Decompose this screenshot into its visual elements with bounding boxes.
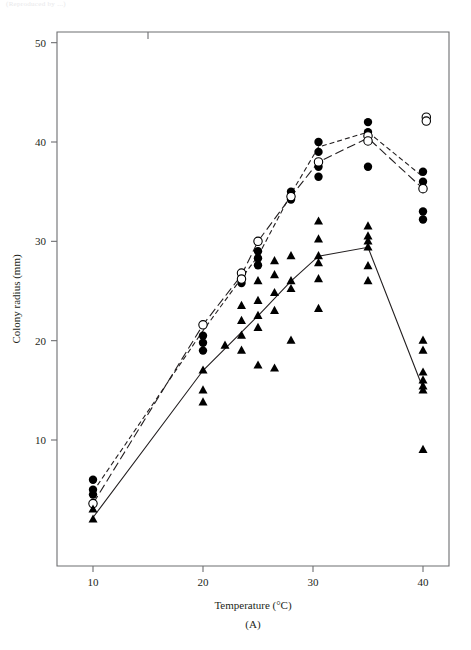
figure-panel-a: (Reproduced by ...) 102030405010203040Te… [0,0,471,650]
data-point-open-circle [314,158,322,166]
data-point-filled-triangle [314,304,323,312]
x-axis-tick-label: 20 [198,576,210,588]
data-point-filled-triangle [237,301,246,309]
cut-caption-text: (Reproduced by ...) [6,0,66,8]
data-point-filled-circle [364,118,372,126]
data-point-open-circle [364,137,372,145]
series-line-open-circle [93,138,423,504]
y-axis-tick-label: 40 [35,136,47,148]
data-point-filled-circle [199,346,207,354]
data-point-open-circle [199,321,207,329]
data-point-filled-circle [419,207,427,215]
data-point-filled-triangle [199,397,208,405]
data-point-open-circle [287,192,295,200]
data-point-open-circle [422,117,430,125]
data-point-filled-triangle [270,256,279,264]
y-axis-tick-label: 10 [35,434,47,446]
x-axis-title: Temperature (°C) [214,599,292,612]
data-point-filled-triangle [199,385,208,393]
data-point-filled-circle [254,261,262,269]
plot-frame [57,32,449,566]
data-point-filled-circle [419,215,427,223]
data-point-filled-circle [314,138,322,146]
y-axis-tick-label: 50 [35,37,47,49]
y-axis-tick-label: 20 [35,335,47,347]
y-axis-title: Colony radius (mm) [10,254,23,344]
data-point-filled-triangle [254,323,263,331]
data-point-filled-triangle [254,276,263,284]
data-point-filled-triangle [419,346,428,354]
data-point-filled-circle [419,168,427,176]
data-point-filled-triangle [287,251,296,259]
data-point-filled-circle [89,476,97,484]
x-axis-tick-label: 30 [308,576,320,588]
data-point-filled-triangle [237,346,246,354]
data-markers [89,113,431,523]
data-point-filled-triangle [314,234,323,242]
data-point-filled-triangle [254,360,263,368]
data-point-filled-triangle [364,276,373,284]
x-axis-tick-label: 40 [418,576,430,588]
data-point-filled-triangle [287,336,296,344]
data-point-filled-triangle [254,296,263,304]
data-point-filled-triangle [221,341,230,349]
series-line-filled-triangle [93,247,423,517]
data-point-filled-triangle [270,270,279,278]
data-point-filled-triangle [419,367,428,375]
data-point-filled-circle [314,148,322,156]
data-point-open-circle [254,237,262,245]
data-point-filled-triangle [314,216,323,224]
data-point-filled-circle [199,339,207,347]
data-point-filled-triangle [270,363,279,371]
data-point-filled-triangle [419,336,428,344]
panel-label: (A) [245,618,261,631]
data-point-filled-triangle [419,445,428,453]
data-point-open-circle [419,185,427,193]
scatter-plot: 102030405010203040Temperature (°C)Colony… [0,0,471,650]
data-point-filled-circle [314,173,322,181]
data-point-filled-triangle [364,261,373,269]
data-point-open-circle [237,275,245,283]
data-point-filled-triangle [364,221,373,229]
data-point-filled-triangle [237,316,246,324]
data-point-filled-triangle [89,514,98,522]
data-point-filled-triangle [314,274,323,282]
data-point-filled-triangle [270,306,279,314]
y-axis-tick-label: 30 [35,235,47,247]
x-axis-tick-label: 10 [88,576,100,588]
data-point-filled-triangle [287,276,296,284]
data-point-filled-triangle [270,288,279,296]
data-point-filled-circle [89,490,97,498]
data-point-filled-circle [364,163,372,171]
